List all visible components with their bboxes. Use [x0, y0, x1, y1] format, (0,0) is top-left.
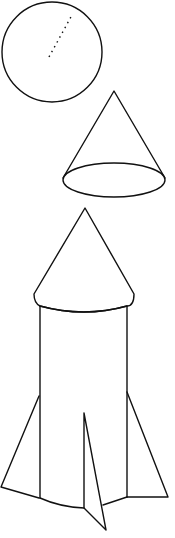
cone-sides [63, 91, 165, 178]
left-fin [1, 396, 39, 498]
nose-cone [34, 208, 134, 312]
center-fin [84, 413, 106, 530]
sphere-radius-line [49, 15, 72, 57]
cone-shape [63, 91, 165, 197]
cone-base-ellipse [63, 163, 165, 197]
sphere-shape [2, 2, 102, 102]
rocket-shape [1, 208, 168, 530]
body-bottom-left-curve [40, 498, 84, 508]
body-bottom-right-curve [103, 497, 127, 505]
right-fin [127, 392, 168, 497]
diagram-canvas [0, 0, 175, 538]
